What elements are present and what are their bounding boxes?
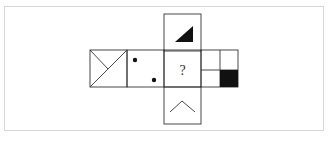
caret-icon [170, 101, 195, 112]
face-dots [127, 50, 164, 87]
triangle-icon [175, 26, 193, 42]
face-left-half-diagonal [90, 50, 108, 69]
face-bottom [164, 87, 201, 124]
question-mark: ? [179, 63, 185, 78]
dot-upper-left [133, 58, 137, 62]
dot-lower-right [152, 78, 156, 82]
filled-quadrant [220, 70, 238, 87]
cube-net-diagram: ? [0, 0, 328, 144]
face-top [164, 14, 201, 51]
